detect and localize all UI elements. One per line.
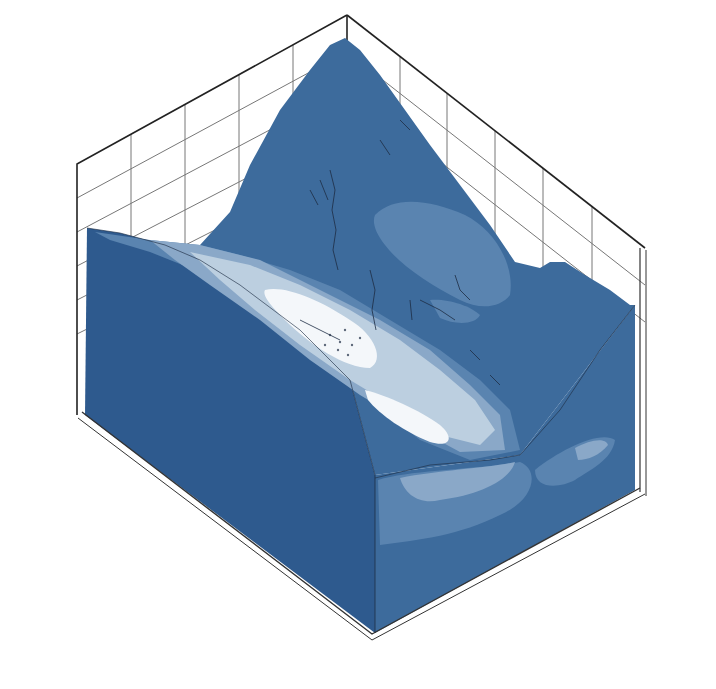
3d-surface-plot: [0, 0, 716, 689]
